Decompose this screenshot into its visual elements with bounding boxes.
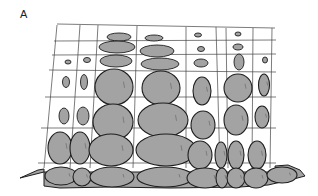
stone <box>89 134 133 166</box>
grid-line <box>270 28 272 168</box>
stone <box>198 47 205 52</box>
stone <box>138 103 188 137</box>
grid-line <box>57 24 275 28</box>
stone <box>244 168 268 188</box>
stone <box>224 105 248 135</box>
stone <box>195 33 202 37</box>
stone <box>70 132 90 164</box>
stone <box>227 168 245 188</box>
stone <box>142 71 180 105</box>
stone <box>90 167 134 187</box>
stone <box>191 111 215 139</box>
stone <box>141 58 179 70</box>
stone <box>255 106 269 128</box>
stone <box>77 107 89 125</box>
stone <box>99 41 135 53</box>
stone <box>140 45 174 57</box>
stone <box>233 44 243 50</box>
stone <box>235 32 241 36</box>
stone <box>224 74 252 102</box>
stones-group <box>45 32 297 188</box>
stone <box>65 60 71 64</box>
grid-line <box>54 40 276 41</box>
stone <box>137 167 193 187</box>
stone <box>234 54 244 70</box>
stone <box>267 167 297 183</box>
stone <box>193 77 211 105</box>
stone <box>63 77 70 88</box>
stone <box>216 168 228 188</box>
stone <box>48 132 72 164</box>
stone <box>59 108 69 124</box>
stone <box>188 141 212 169</box>
stone-grid-illustration <box>0 0 318 196</box>
stone <box>100 55 132 67</box>
stone <box>194 59 208 67</box>
stone <box>107 33 131 41</box>
stone <box>215 142 227 168</box>
stone <box>73 168 91 186</box>
stone <box>228 141 244 169</box>
stone <box>263 57 268 63</box>
stone <box>248 141 266 169</box>
stone <box>145 35 163 41</box>
stone <box>81 75 88 90</box>
stone <box>84 58 91 63</box>
stone <box>95 69 133 105</box>
stone <box>45 167 77 185</box>
stone <box>136 134 196 166</box>
